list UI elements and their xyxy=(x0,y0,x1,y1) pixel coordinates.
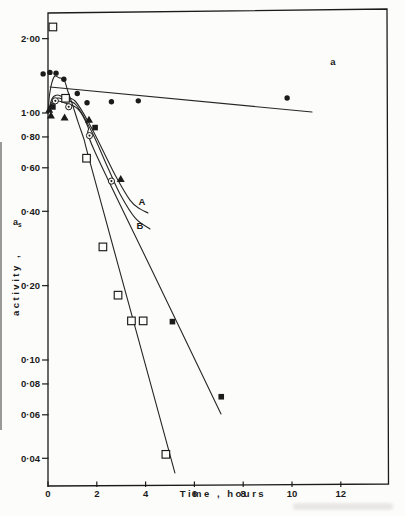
filled-triangle-marker xyxy=(61,113,69,120)
chart-canvas: 2·001·000·800·600·400·200·100·080·060·04… xyxy=(0,0,405,516)
y-axis-symbol: as xyxy=(13,217,22,228)
open-circle-center-dot xyxy=(68,106,70,108)
x-tick-label: 10 xyxy=(287,488,298,499)
y-tick-label: 0·06 xyxy=(21,409,40,420)
filled-circle-marker xyxy=(84,100,89,105)
y-axis-title: activity , xyxy=(10,253,21,316)
y-tick-label: 0·40 xyxy=(21,206,40,217)
y-tick-label: 0·60 xyxy=(21,162,40,173)
y-tick-label: 0·08 xyxy=(21,378,40,389)
line-through-filled-squares xyxy=(48,101,221,414)
filled-triangle-marker xyxy=(85,116,93,123)
filled-square-marker xyxy=(218,394,224,400)
x-tick-label: 12 xyxy=(336,488,347,499)
filled-square-marker xyxy=(50,104,56,110)
x-tick-label: 0 xyxy=(45,488,50,499)
filled-square-marker xyxy=(170,319,176,325)
open-square-marker xyxy=(62,94,70,102)
line-a xyxy=(50,87,312,112)
x-tick-label: 2 xyxy=(94,488,99,499)
y-tick-label: 0·20 xyxy=(21,280,40,291)
curve-A xyxy=(48,95,148,213)
y-tick-label: 0·04 xyxy=(21,453,41,464)
open-square-marker xyxy=(83,154,91,162)
filled-circle-marker xyxy=(75,91,80,96)
filled-circle-marker xyxy=(109,99,114,104)
curve-label-A: A xyxy=(139,196,146,207)
y-axis-symbol-subscript: s xyxy=(18,221,22,228)
curve-label-a: a xyxy=(330,56,336,67)
open-square-marker xyxy=(114,291,122,299)
filled-circle-marker xyxy=(47,70,52,75)
open-square-marker xyxy=(128,317,136,325)
x-tick-label: 4 xyxy=(143,488,149,499)
open-square-marker xyxy=(49,23,57,31)
x-axis-title: Time , hours xyxy=(163,488,283,499)
open-square-marker xyxy=(139,317,147,325)
filled-circle-marker xyxy=(284,95,289,100)
curve-label-B: B xyxy=(137,220,144,231)
open-square-marker xyxy=(162,451,170,459)
open-circle-center-dot xyxy=(88,135,90,137)
y-tick-label: 2·00 xyxy=(21,33,40,44)
line-through-open-squares xyxy=(48,76,175,473)
y-tick-label: 0·10 xyxy=(21,354,40,365)
open-circle-center-dot xyxy=(54,100,56,102)
filled-triangle-marker xyxy=(117,175,125,182)
filled-circle-marker xyxy=(136,98,141,103)
scanned-figure-page: 2·001·000·800·600·400·200·100·080·060·04… xyxy=(0,0,405,516)
y-tick-label: 1·00 xyxy=(21,107,40,118)
filled-square-marker xyxy=(92,125,98,131)
filled-circle-marker xyxy=(61,77,66,82)
open-square-marker xyxy=(99,243,107,251)
filled-circle-marker xyxy=(40,71,45,76)
y-tick-label: 0·80 xyxy=(21,131,40,142)
scan-ghost-artifact xyxy=(293,503,393,510)
filled-circle-marker xyxy=(53,70,58,75)
open-circle-center-dot xyxy=(110,180,112,182)
scan-edge-artifact xyxy=(0,142,2,430)
